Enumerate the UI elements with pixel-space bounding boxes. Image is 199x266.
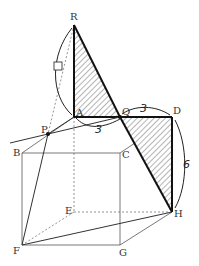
length-aq: 3 xyxy=(95,124,102,135)
label-c: C xyxy=(122,150,130,160)
label-q: Q xyxy=(122,107,130,117)
label-b: B xyxy=(13,148,20,158)
label-r: R xyxy=(70,12,78,22)
label-d: D xyxy=(173,106,181,116)
label-h: H xyxy=(174,209,183,219)
length-dh: 6 xyxy=(183,159,190,170)
label-g: G xyxy=(119,248,127,258)
label-a: A xyxy=(76,108,83,118)
label-p: P xyxy=(41,125,48,135)
unknown-length-box xyxy=(54,62,62,70)
label-f: F xyxy=(13,246,20,256)
length-qd: 3 xyxy=(140,103,147,114)
label-e: E xyxy=(65,206,72,216)
